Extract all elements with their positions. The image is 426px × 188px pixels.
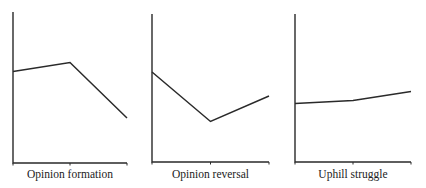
series-line: [13, 63, 127, 119]
series-line: [295, 92, 411, 104]
figure: Opinion formation Opinion reversal Uphil…: [0, 0, 426, 188]
axes: [13, 12, 127, 163]
panel-2-xlabel: Opinion reversal: [152, 168, 269, 180]
panel-1: [13, 12, 127, 166]
axes: [295, 14, 411, 162]
panel-3-xlabel: Uphill struggle: [295, 168, 411, 180]
panel-3: [295, 14, 411, 165]
series-line: [152, 72, 269, 122]
panel-2: [152, 14, 269, 165]
axes: [152, 14, 269, 162]
panel-1-xlabel: Opinion formation: [13, 168, 127, 180]
chart-canvas: [0, 0, 426, 188]
